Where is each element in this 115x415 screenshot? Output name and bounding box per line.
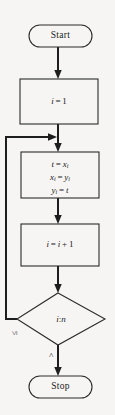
edge-init-to-swap (54, 124, 61, 152)
edge-label-exit: > (46, 348, 56, 362)
edge-start-to-init (54, 47, 61, 79)
node-swap-shape (21, 152, 99, 198)
node-decision-shape (17, 293, 105, 345)
edge-swap-to-increment (54, 198, 61, 224)
node-start-shape (29, 25, 92, 47)
node-stop-shape (29, 376, 92, 398)
node-init-shape (20, 79, 98, 124)
node-increment-shape (21, 224, 99, 266)
flowchart-canvas: Start i = 1 t = xi xi = yi yi = t i = i … (0, 0, 115, 415)
edge-label-loop-back: ≤ (9, 326, 19, 340)
edge-increment-to-decision (54, 266, 61, 293)
flowchart-graphics (0, 0, 115, 415)
